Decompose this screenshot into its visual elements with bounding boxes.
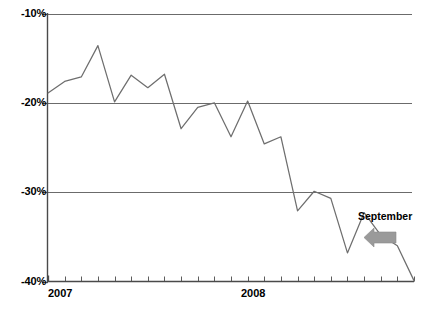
x-axis-label-2007: 2007 [48,288,72,299]
line-chart-plot [0,0,424,312]
september-annotation-label: September [358,211,412,222]
x-axis-label-2008: 2008 [241,288,265,299]
y-axis-label-1: -20% [0,97,46,108]
x-axis-ticks-group [49,276,415,282]
september-arrow-icon [364,228,396,247]
y-axis-label-2: -30% [0,186,46,197]
y-axis-labels: -10% -20% -30% -40% [0,0,46,312]
data-series-line [48,46,414,281]
chart-container: -10% -20% -30% -40% 2007 2008 September [0,0,424,312]
gridlines-group [48,15,412,193]
y-axis-label-0: -10% [0,8,46,19]
y-axis-label-3: -40% [0,276,46,287]
